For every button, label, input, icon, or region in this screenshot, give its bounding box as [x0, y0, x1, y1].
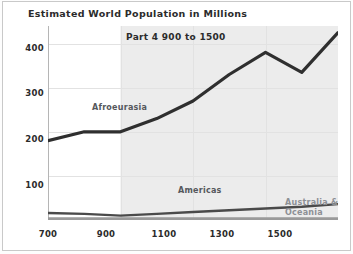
chart-page: Estimated World Population in Millions P… [0, 0, 353, 254]
series-label-australia-line2: Oceania [285, 208, 323, 217]
y-tick-label-200: 200 [14, 134, 44, 144]
plot-area: Part 4 900 to 1500 Afroeurasia Americas … [48, 26, 338, 220]
y-tick-label-300: 300 [14, 88, 44, 98]
y-tick-label-100: 100 [14, 180, 44, 190]
x-tick-label-700: 700 [28, 229, 68, 239]
x-tick-label-1500: 1500 [260, 229, 300, 239]
x-tick-label-900: 900 [86, 229, 126, 239]
series-label-americas: Americas [178, 186, 222, 195]
highlight-band [121, 26, 339, 220]
chart-subtitle: Part 4 900 to 1500 [126, 32, 226, 42]
y-tick-label-400: 400 [14, 43, 44, 53]
chart-title: Estimated World Population in Millions [28, 8, 247, 19]
series-label-australia-oceania: Australia & Oceania [285, 198, 338, 217]
x-tick-label-1100: 1100 [144, 229, 184, 239]
x-tick-label-1300: 1300 [202, 229, 242, 239]
series-label-afroeurasia: Afroeurasia [92, 103, 147, 112]
series-label-australia-line1: Australia & [285, 198, 338, 207]
